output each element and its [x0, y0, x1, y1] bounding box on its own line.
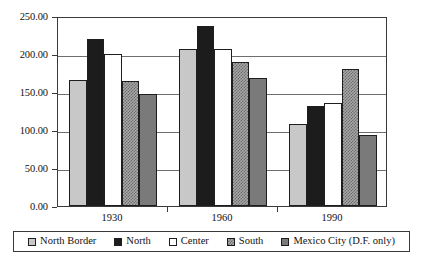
x-tick-label: 1960 [212, 213, 233, 224]
bar-north-1960 [197, 26, 215, 206]
y-tick-label: 50.00 [25, 164, 48, 175]
legend-item-north-border[interactable]: North Border [28, 236, 96, 247]
legend-label: Center [181, 236, 209, 247]
bar-north-border-1990 [289, 124, 307, 206]
legend-item-mexico-city[interactable]: Mexico City (D.F. only) [281, 236, 395, 247]
y-tick-mark [52, 93, 57, 94]
legend-swatch-mexico-city-icon [281, 238, 289, 246]
legend-swatch-south-icon [227, 238, 235, 246]
legend-label: North Border [40, 236, 96, 247]
bar-center-1960 [214, 49, 232, 206]
bar-north-1990 [307, 106, 325, 206]
plot-area [57, 17, 387, 207]
bar-center-1990 [324, 103, 342, 206]
y-tick-mark [52, 169, 57, 170]
y-axis: 0.0050.00100.00150.00200.00250.00 [0, 0, 57, 210]
legend-item-south[interactable]: South [227, 236, 264, 247]
legend-item-north[interactable]: North [114, 236, 151, 247]
y-tick-mark [52, 131, 57, 132]
y-tick-label: 100.00 [20, 126, 48, 137]
bar-mexico-city-1960 [249, 78, 267, 206]
bar-mexico-city-1990 [359, 135, 377, 206]
legend-swatch-north-icon [114, 238, 122, 246]
x-tick-label: 1930 [102, 213, 123, 224]
bar-north-border-1930 [69, 80, 87, 206]
bar-north-border-1960 [179, 49, 197, 206]
y-tick-label: 200.00 [20, 50, 48, 61]
y-tick-mark [52, 207, 57, 208]
bar-south-1990 [342, 69, 360, 206]
legend-label: Mexico City (D.F. only) [293, 236, 395, 247]
x-tick-label: 1990 [322, 213, 343, 224]
y-tick-label: 0.00 [30, 202, 48, 213]
legend-item-center[interactable]: Center [169, 236, 209, 247]
x-tick-mark [167, 207, 168, 212]
bar-south-1960 [232, 62, 250, 206]
y-tick-mark [52, 55, 57, 56]
bar-chart: 0.0050.00100.00150.00200.00250.00 North … [0, 0, 424, 266]
x-tick-mark [277, 207, 278, 212]
bar-south-1930 [122, 81, 140, 206]
chart-legend: North BorderNorthCenterSouthMexico City … [13, 231, 410, 252]
y-tick-mark [52, 17, 57, 18]
y-tick-label: 150.00 [20, 88, 48, 99]
legend-swatch-north-border-icon [28, 238, 36, 246]
legend-label: South [239, 236, 264, 247]
y-tick-label: 250.00 [20, 12, 48, 23]
legend-label: North [126, 236, 151, 247]
bar-mexico-city-1930 [139, 94, 157, 206]
bar-north-1930 [87, 39, 105, 206]
bar-center-1930 [104, 54, 122, 206]
legend-swatch-center-icon [169, 238, 177, 246]
